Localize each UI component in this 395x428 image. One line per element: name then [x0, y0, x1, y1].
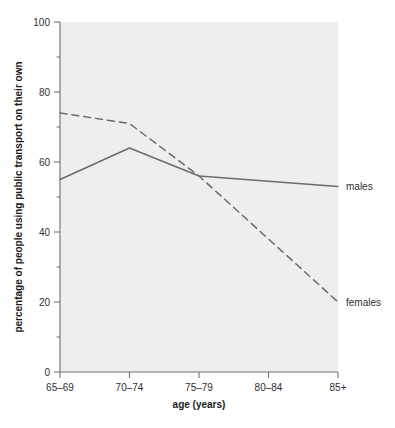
- series-label-females: females: [346, 297, 381, 308]
- x-tick-label: 65–69: [46, 382, 74, 393]
- y-tick-label: 60: [39, 157, 51, 168]
- chart-figure: 02040608010065–6970–7475–7980–8485+age (…: [0, 0, 395, 428]
- x-tick-label: 70–74: [116, 382, 144, 393]
- x-tick-label: 85+: [330, 382, 347, 393]
- y-tick-label: 80: [39, 87, 51, 98]
- y-tick-label: 100: [33, 17, 50, 28]
- y-tick-label: 0: [44, 367, 50, 378]
- x-axis-title: age (years): [173, 399, 226, 410]
- y-tick-label: 40: [39, 227, 51, 238]
- x-tick-label: 80–84: [255, 382, 283, 393]
- y-tick-label: 20: [39, 297, 51, 308]
- series-label-males: males: [346, 181, 373, 192]
- plot-area-background: [60, 22, 338, 372]
- x-tick-label: 75–79: [185, 382, 213, 393]
- y-axis-title: percentage of people using public transp…: [13, 61, 24, 332]
- line-chart: 02040608010065–6970–7475–7980–8485+age (…: [0, 0, 395, 428]
